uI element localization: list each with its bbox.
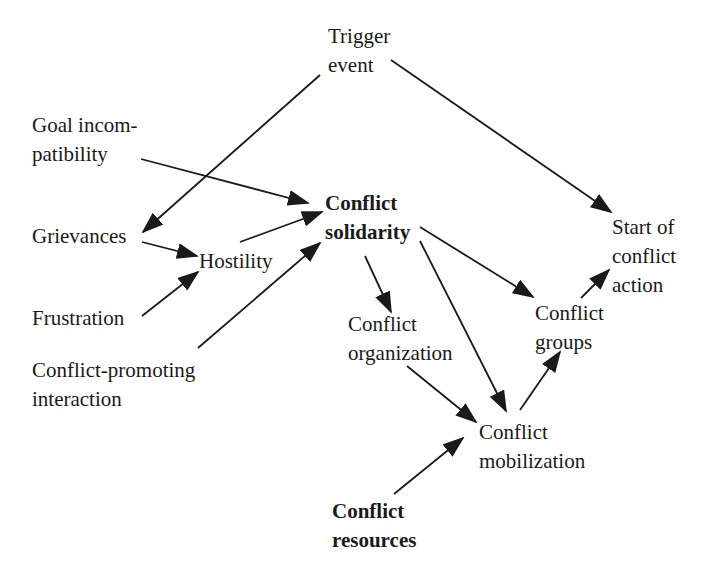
- node-start-of-conflict-action: Start of conflict action: [612, 213, 676, 300]
- node-label-line: Start of: [612, 213, 676, 242]
- node-label-line: Hostility: [199, 247, 273, 276]
- arrows-layer: [0, 0, 716, 571]
- arrow-trigger-to-start: [391, 60, 611, 212]
- arrow-mobilization-to-groups: [520, 352, 560, 410]
- node-label-line: mobilization: [479, 447, 585, 476]
- arrow-groups-to-start: [581, 270, 609, 298]
- arrow-trigger-to-grievances: [143, 75, 320, 232]
- node-trigger-event: Trigger event: [328, 22, 390, 80]
- node-label-line: Conflict-promoting: [32, 356, 195, 385]
- node-goal-incompatibility: Goal incom- patibility: [32, 111, 138, 169]
- node-label-line: patibility: [32, 140, 138, 169]
- node-label-line: groups: [535, 328, 604, 357]
- arrow-solidarity-to-organization: [365, 256, 391, 312]
- arrow-resources-to-mobilization: [394, 438, 463, 494]
- node-hostility: Hostility: [199, 247, 273, 276]
- node-label-line: Conflict: [348, 310, 453, 339]
- node-frustration: Frustration: [32, 304, 124, 333]
- node-label-line: Goal incom-: [32, 111, 138, 140]
- node-conflict-resources: Conflict resources: [332, 497, 416, 555]
- node-label-line: solidarity: [325, 218, 410, 247]
- arrow-frustration-to-hostility: [142, 272, 198, 316]
- node-label-line: Grievances: [32, 222, 126, 251]
- node-conflict-organization: Conflict organization: [348, 310, 453, 368]
- node-label-line: Conflict: [479, 418, 585, 447]
- node-conflict-promoting-interaction: Conflict-promoting interaction: [32, 356, 195, 414]
- conflict-process-diagram: Trigger event Goal incom- patibility Gri…: [0, 0, 716, 571]
- node-label-line: Trigger: [328, 22, 390, 51]
- arrow-solidarity-to-groups: [420, 227, 533, 297]
- node-label-line: Conflict: [332, 497, 416, 526]
- node-label-line: resources: [332, 526, 416, 555]
- arrow-organization-to-mobilization: [407, 366, 476, 422]
- node-label-line: Conflict: [325, 189, 410, 218]
- arrow-hostility-to-solidarity: [240, 212, 322, 242]
- node-grievances: Grievances: [32, 222, 126, 251]
- node-conflict-solidarity: Conflict solidarity: [325, 189, 410, 247]
- node-label-line: conflict: [612, 242, 676, 271]
- node-label-line: action: [612, 271, 676, 300]
- node-label-line: Frustration: [32, 304, 124, 333]
- arrow-goal-to-solidarity: [141, 159, 308, 203]
- node-conflict-groups: Conflict groups: [535, 299, 604, 357]
- arrow-grievances-to-hostility: [142, 242, 197, 256]
- node-label-line: event: [328, 51, 390, 80]
- node-label-line: Conflict: [535, 299, 604, 328]
- node-label-line: interaction: [32, 385, 195, 414]
- node-conflict-mobilization: Conflict mobilization: [479, 418, 585, 476]
- node-label-line: organization: [348, 339, 453, 368]
